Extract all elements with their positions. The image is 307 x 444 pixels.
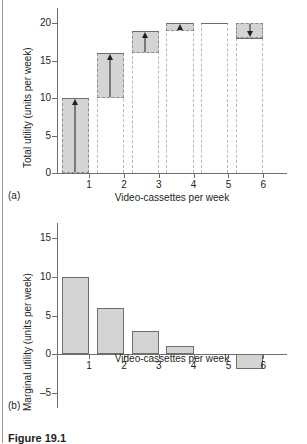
total-utility-column (166, 23, 193, 173)
panel-a-y-tick (52, 61, 57, 62)
arrow-head-up (107, 54, 113, 60)
panel-b-marginal-utility: Marginal utility (units per week) –50510… (0, 215, 307, 430)
panel-a-y-tick-label: 0 (25, 168, 51, 178)
panel-a-x-tick (124, 173, 125, 178)
arrow-head-down (247, 31, 253, 37)
increment-up-arrow (166, 24, 193, 30)
panel-a-tag: (a) (8, 190, 20, 201)
arrow-head-up (72, 99, 78, 105)
panel-b-y-tick (52, 316, 57, 317)
panel-b-x-axis-label: Video-cassettes per week (57, 353, 287, 364)
panel-a-y-tick (52, 136, 57, 137)
panel-b-y-tick-label: 5 (25, 311, 51, 321)
panel-a-x-tick-label: 1 (79, 180, 99, 190)
panel-a-y-tick-label: 5 (25, 131, 51, 141)
total-utility-column (201, 23, 228, 173)
panel-a-x-tick (194, 173, 195, 178)
increment-up-arrow (132, 32, 159, 53)
total-utility-column (236, 38, 263, 173)
panel-a-x-tick-label: 4 (184, 180, 204, 190)
panel-b-y-tick-label: 0 (25, 349, 51, 359)
panel-a-x-tick-label: 2 (114, 180, 134, 190)
increment-up-arrow (62, 99, 89, 172)
panel-a-y-tick-label: 15 (25, 56, 51, 66)
panel-a-y-tick (52, 98, 57, 99)
panel-a-x-tick-label: 3 (149, 180, 169, 190)
marginal-utility-bar (132, 331, 159, 354)
total-utility-step-top (201, 23, 228, 24)
panel-a-x-tick-label: 6 (253, 180, 273, 190)
increment-up-arrow (97, 54, 124, 97)
marginal-utility-bar (62, 277, 89, 354)
panel-a-x-tick (159, 173, 160, 178)
panel-b-y-tick (52, 393, 57, 394)
panel-a-x-tick (89, 173, 90, 178)
arrow-head-up (177, 24, 183, 30)
arrow-shaft (75, 103, 76, 172)
panel-a-x-tick (263, 173, 264, 178)
panel-a-x-axis (57, 173, 287, 174)
arrow-shaft (110, 58, 111, 97)
panel-b-y-axis (57, 223, 58, 408)
marginal-utility-bar (97, 308, 124, 354)
panel-b-plot-area: –5051015123456 (57, 223, 287, 408)
panel-b-y-tick (52, 238, 57, 239)
panel-a-y-tick-label: 10 (25, 93, 51, 103)
figure-caption: Figure 19.1 (8, 432, 66, 444)
panel-a-x-tick (228, 173, 229, 178)
panel-a-plot-area: 05101520123456 (57, 8, 287, 173)
panel-a-x-axis-label: Video-cassettes per week (57, 192, 287, 203)
panel-a-y-tick (52, 23, 57, 24)
arrow-head-up (142, 32, 148, 38)
increment-down-arrow (236, 24, 263, 37)
panel-a-y-tick-label: 20 (25, 18, 51, 28)
panel-b-y-tick-label: 10 (25, 272, 51, 282)
panel-b-y-tick-label: 15 (25, 233, 51, 243)
arrow-shaft (145, 36, 146, 53)
panel-b-y-tick (52, 277, 57, 278)
panel-b-tag: (b) (8, 400, 20, 411)
panel-a-total-utility: Total utility (units per week) 051015201… (0, 0, 307, 205)
panel-a-y-tick (52, 173, 57, 174)
total-utility-step-top (236, 38, 263, 39)
panel-a-y-axis (57, 8, 58, 173)
panel-a-x-tick-label: 5 (218, 180, 238, 190)
panel-b-y-tick-label: –5 (25, 388, 51, 398)
